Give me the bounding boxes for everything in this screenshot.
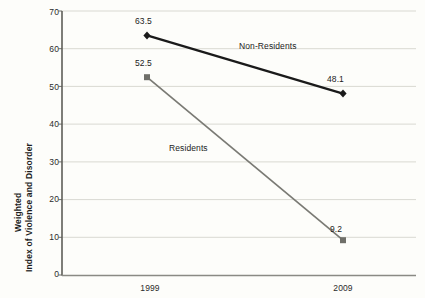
data-point-residents-1999 — [144, 74, 150, 80]
plot-canvas — [0, 0, 425, 298]
data-point-nonresidents-2009 — [339, 90, 346, 98]
series-residents — [144, 74, 346, 243]
data-point-nonresidents-1999 — [143, 31, 150, 39]
data-label-residents-2009: 9.2 — [330, 224, 342, 234]
data-label-residents-1999: 52.5 — [135, 58, 152, 68]
data-label-nonresidents-2009: 48.1 — [327, 74, 344, 84]
chart-figure: Weighted Index of Violence and Disorder … — [0, 0, 425, 298]
series-label-residents: Residents — [169, 143, 208, 153]
data-label-nonresidents-1999: 63.5 — [135, 16, 152, 26]
data-point-residents-2009 — [340, 237, 346, 243]
series-label-nonresidents: Non-Residents — [239, 41, 297, 51]
